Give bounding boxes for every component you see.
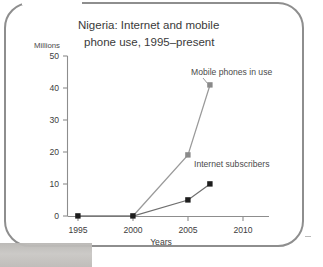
y-tick-label-40: 40 bbox=[49, 83, 59, 93]
y-tick-label-50: 50 bbox=[49, 51, 59, 61]
x-tick-label-2010: 2010 bbox=[233, 225, 252, 235]
y-tick-label-0: 0 bbox=[54, 211, 59, 221]
x-axis-title: Years bbox=[150, 237, 172, 247]
line-chart: Nigeria: Internet and mobile phone use, … bbox=[4, 2, 304, 247]
y-tick-label-30: 30 bbox=[49, 115, 59, 125]
y-tick-label-20: 20 bbox=[49, 147, 59, 157]
x-tick-label-2000: 2000 bbox=[123, 225, 142, 235]
chart-title-line-2: phone use, 1995–present bbox=[84, 36, 215, 48]
y-tick-label-10: 10 bbox=[49, 179, 59, 189]
series-annotation-internet-subscribers: Internet subscribers bbox=[194, 159, 269, 169]
x-axis-ticks bbox=[78, 217, 243, 222]
series-leader-mobile-phones bbox=[203, 78, 208, 84]
chart-title-line-1: Nigeria: Internet and mobile bbox=[78, 19, 219, 31]
series-annotation-mobile-phones: Mobile phones in use bbox=[191, 67, 272, 77]
page-margin-mark bbox=[305, 236, 311, 237]
y-axis-ticks bbox=[63, 56, 68, 216]
y-axis-unit-label: Millions bbox=[34, 41, 60, 50]
scanned-page-background: Nigeria: Internet and mobile phone use, … bbox=[0, 0, 323, 267]
x-tick-label-2005: 2005 bbox=[178, 225, 197, 235]
scan-edge-smudge bbox=[0, 243, 92, 267]
x-tick-label-1995: 1995 bbox=[68, 225, 87, 235]
series-line-mobile-phones bbox=[78, 85, 210, 216]
